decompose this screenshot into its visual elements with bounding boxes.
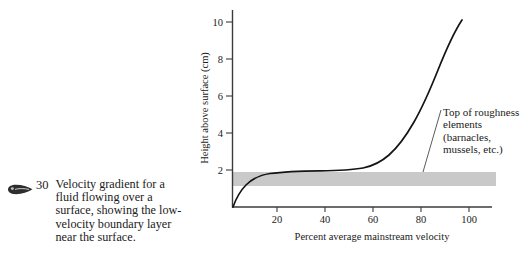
- y-tick-label: 4: [218, 128, 224, 139]
- y-axis-title: Height above surface (cm): [199, 52, 211, 164]
- roughness-band: [233, 172, 496, 186]
- x-tick-marks: [277, 207, 469, 212]
- y-tick-label: 8: [218, 54, 223, 65]
- y-tick-marks: [226, 22, 232, 170]
- x-tick-label: 60: [368, 214, 379, 225]
- x-tick-label: 100: [461, 214, 477, 225]
- y-tick-label: 10: [213, 17, 224, 28]
- x-tick-label: 40: [320, 214, 331, 225]
- annotation-text: Top of roughness elements (barnacles, mu…: [443, 106, 523, 156]
- y-tick-label: 6: [218, 91, 223, 102]
- x-axis-title: Percent average mainstream velocity: [295, 231, 451, 242]
- x-tick-label: 80: [416, 214, 427, 225]
- x-tick-labels: 20 40 60 80 100: [272, 214, 477, 225]
- y-tick-label: 2: [218, 165, 223, 176]
- x-tick-label: 20: [272, 214, 283, 225]
- y-tick-labels: 10 8 6 4 2: [213, 17, 224, 176]
- annotation-leader-line: [423, 110, 441, 172]
